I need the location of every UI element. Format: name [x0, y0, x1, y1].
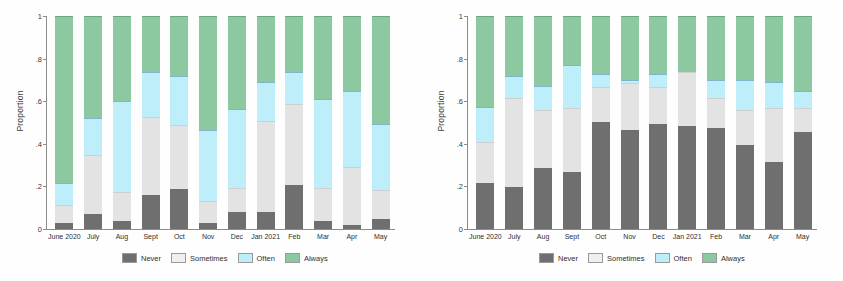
bar-segment-sometimes[interactable] [765, 108, 783, 162]
bar-segment-sometimes[interactable] [534, 110, 552, 168]
bar-segment-always[interactable] [343, 16, 361, 91]
bar-segment-always[interactable] [228, 16, 246, 109]
stacked-bar[interactable] [707, 16, 725, 229]
stacked-bar[interactable] [649, 16, 667, 229]
stacked-bar[interactable] [199, 16, 217, 229]
bar-segment-often[interactable] [534, 86, 552, 110]
bar-segment-sometimes[interactable] [736, 110, 754, 145]
bar-segment-sometimes[interactable] [142, 117, 160, 196]
bar-segment-always[interactable] [476, 16, 494, 107]
bar-segment-often[interactable] [170, 76, 188, 125]
bar-segment-never[interactable] [736, 145, 754, 229]
bar-segment-never[interactable] [794, 132, 812, 229]
bar-segment-never[interactable] [199, 223, 217, 229]
bar-segment-sometimes[interactable] [794, 108, 812, 132]
stacked-bar[interactable] [765, 16, 783, 229]
bar-segment-sometimes[interactable] [113, 192, 131, 220]
bar-segment-always[interactable] [285, 16, 303, 72]
stacked-bar[interactable] [476, 16, 494, 229]
bar-segment-never[interactable] [314, 221, 332, 229]
legend-item-never[interactable]: Never [122, 253, 161, 263]
bar-segment-never[interactable] [113, 221, 131, 229]
bar-segment-always[interactable] [563, 16, 581, 65]
bar-segment-often[interactable] [257, 82, 275, 121]
bar-segment-always[interactable] [55, 16, 73, 183]
bar-segment-never[interactable] [592, 122, 610, 229]
bar-segment-always[interactable] [142, 16, 160, 72]
legend-item-sometimes[interactable]: Sometimes [588, 253, 645, 263]
bar-segment-often[interactable] [55, 183, 73, 205]
stacked-bar[interactable] [55, 16, 73, 229]
bar-segment-sometimes[interactable] [228, 188, 246, 212]
bar-segment-never[interactable] [228, 212, 246, 229]
bar-segment-sometimes[interactable] [314, 188, 332, 221]
stacked-bar[interactable] [592, 16, 610, 229]
stacked-bar[interactable] [736, 16, 754, 229]
bar-segment-never[interactable] [343, 225, 361, 229]
bar-segment-always[interactable] [314, 16, 332, 99]
bar-segment-often[interactable] [476, 107, 494, 142]
bar-segment-often[interactable] [592, 74, 610, 88]
bar-segment-often[interactable] [736, 80, 754, 110]
bar-segment-sometimes[interactable] [563, 108, 581, 172]
stacked-bar[interactable] [505, 16, 523, 229]
stacked-bar[interactable] [621, 16, 639, 229]
bar-segment-sometimes[interactable] [678, 72, 696, 126]
bar-segment-always[interactable] [736, 16, 754, 80]
bar-segment-often[interactable] [84, 118, 102, 155]
legend-item-never[interactable]: Never [539, 253, 578, 263]
bar-segment-often[interactable] [765, 82, 783, 108]
bar-segment-often[interactable] [113, 101, 131, 192]
stacked-bar[interactable] [228, 16, 246, 229]
bar-segment-often[interactable] [142, 72, 160, 117]
stacked-bar[interactable] [285, 16, 303, 229]
bar-segment-always[interactable] [113, 16, 131, 101]
bar-segment-always[interactable] [199, 16, 217, 130]
stacked-bar[interactable] [314, 16, 332, 229]
legend-item-sometimes[interactable]: Sometimes [171, 253, 228, 263]
bar-segment-always[interactable] [707, 16, 725, 80]
bar-segment-always[interactable] [170, 16, 188, 76]
bar-segment-often[interactable] [794, 91, 812, 109]
bar-segment-often[interactable] [314, 99, 332, 188]
bar-segment-never[interactable] [55, 223, 73, 229]
stacked-bar[interactable] [84, 16, 102, 229]
bar-segment-never[interactable] [678, 126, 696, 229]
bar-segment-always[interactable] [534, 16, 552, 86]
bar-segment-never[interactable] [563, 172, 581, 229]
bar-segment-always[interactable] [592, 16, 610, 74]
bar-segment-sometimes[interactable] [372, 190, 390, 218]
stacked-bar[interactable] [534, 16, 552, 229]
bar-segment-sometimes[interactable] [343, 167, 361, 225]
bar-segment-always[interactable] [372, 16, 390, 124]
stacked-bar[interactable] [372, 16, 390, 229]
stacked-bar[interactable] [563, 16, 581, 229]
bar-segment-never[interactable] [707, 128, 725, 229]
bar-segment-always[interactable] [649, 16, 667, 74]
bar-segment-sometimes[interactable] [199, 201, 217, 223]
stacked-bar[interactable] [794, 16, 812, 229]
bar-segment-sometimes[interactable] [707, 98, 725, 128]
bar-segment-sometimes[interactable] [505, 98, 523, 187]
stacked-bar[interactable] [142, 16, 160, 229]
legend-item-always[interactable]: Always [285, 253, 328, 263]
bar-segment-often[interactable] [563, 65, 581, 108]
bar-segment-never[interactable] [534, 168, 552, 229]
legend-item-often[interactable]: Often [238, 253, 275, 263]
bar-segment-often[interactable] [285, 72, 303, 105]
bar-segment-sometimes[interactable] [170, 125, 188, 189]
bar-segment-always[interactable] [765, 16, 783, 82]
stacked-bar[interactable] [343, 16, 361, 229]
bar-segment-never[interactable] [505, 187, 523, 229]
bar-segment-never[interactable] [372, 219, 390, 230]
bar-segment-often[interactable] [199, 130, 217, 200]
bar-segment-always[interactable] [621, 16, 639, 80]
bar-segment-sometimes[interactable] [649, 87, 667, 124]
bar-segment-never[interactable] [84, 214, 102, 229]
stacked-bar[interactable] [678, 16, 696, 229]
stacked-bar[interactable] [113, 16, 131, 229]
bar-segment-sometimes[interactable] [55, 205, 73, 223]
bar-segment-always[interactable] [257, 16, 275, 82]
bar-segment-never[interactable] [649, 124, 667, 229]
bar-segment-never[interactable] [257, 212, 275, 229]
